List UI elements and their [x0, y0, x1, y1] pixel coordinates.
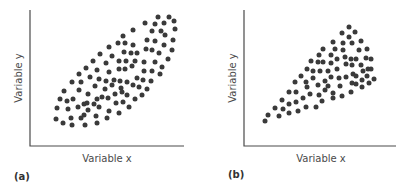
data-point: [117, 59, 122, 64]
panel-a: Variable x Variable y (a): [13, 10, 184, 182]
data-point: [335, 57, 340, 62]
data-point: [153, 60, 158, 65]
data-point: [150, 69, 155, 74]
data-point: [55, 106, 60, 111]
data-point: [137, 85, 142, 90]
data-point: [124, 59, 129, 64]
data-point: [112, 78, 117, 83]
data-point: [329, 75, 334, 80]
data-point: [133, 97, 138, 102]
data-point: [104, 61, 109, 66]
data-point: [83, 123, 88, 128]
data-point: [367, 81, 372, 86]
data-point: [311, 76, 316, 81]
panel-a-ylabel: Variable y: [13, 53, 24, 103]
data-point: [113, 92, 118, 97]
data-point: [93, 84, 98, 89]
data-point: [273, 106, 278, 111]
data-point: [117, 67, 122, 72]
data-point: [340, 94, 345, 99]
data-point: [335, 67, 340, 72]
data-point: [304, 80, 309, 85]
data-point: [320, 99, 325, 104]
data-point: [287, 90, 292, 95]
data-point: [125, 93, 130, 98]
data-point: [131, 83, 136, 88]
data-point: [344, 75, 349, 80]
data-point: [173, 27, 178, 32]
data-point: [91, 59, 96, 64]
data-point: [369, 67, 374, 72]
data-point: [266, 113, 271, 118]
data-point: [369, 57, 374, 62]
panel-b-xlabel: Variable x: [296, 153, 346, 164]
data-point: [156, 15, 161, 20]
panel-a-xlabel: Variable x: [82, 153, 132, 164]
data-point: [365, 74, 370, 79]
data-point: [70, 80, 75, 85]
data-point: [357, 48, 362, 53]
data-point: [149, 79, 154, 84]
scatter-figure: Variable x Variable y (a) Variable x Var…: [0, 0, 401, 187]
panel-b: Variable x Variable y (b): [227, 10, 396, 180]
data-point: [314, 105, 319, 110]
data-point: [365, 47, 370, 52]
data-point: [317, 53, 322, 58]
data-point: [118, 79, 123, 84]
data-point: [114, 101, 119, 106]
data-point: [305, 85, 310, 90]
data-point: [350, 63, 355, 68]
data-point: [326, 69, 331, 74]
data-point: [65, 99, 70, 104]
data-point: [122, 50, 127, 55]
data-point: [129, 51, 134, 56]
data-point: [304, 105, 309, 110]
panel-a-label: (a): [14, 171, 30, 182]
data-point: [121, 100, 126, 105]
data-point: [354, 74, 359, 79]
data-point: [135, 76, 140, 81]
data-point: [97, 77, 102, 82]
data-point: [343, 55, 348, 60]
data-point: [153, 39, 158, 44]
data-point: [341, 41, 346, 46]
data-point: [309, 59, 314, 64]
data-point: [127, 105, 132, 110]
data-point: [170, 48, 175, 53]
data-point: [144, 47, 149, 52]
data-point: [323, 79, 328, 84]
data-point: [361, 69, 366, 74]
data-point: [305, 67, 310, 72]
data-point: [153, 22, 158, 27]
panel-b-points: [263, 25, 377, 124]
data-point: [123, 67, 128, 72]
data-point: [107, 109, 112, 114]
data-point: [95, 97, 100, 102]
data-point: [70, 123, 75, 128]
data-point: [350, 41, 355, 46]
data-point: [77, 88, 82, 93]
data-point: [76, 105, 81, 110]
data-point: [359, 63, 364, 68]
data-point: [347, 25, 352, 30]
data-point: [341, 48, 346, 53]
data-point: [160, 65, 165, 70]
data-point: [349, 57, 354, 62]
data-point: [347, 35, 352, 40]
data-point: [95, 121, 100, 126]
panel-b-label: (b): [228, 169, 244, 180]
data-point: [329, 53, 334, 58]
data-point: [331, 96, 336, 101]
data-point: [333, 47, 338, 52]
data-point: [66, 107, 71, 112]
data-point: [130, 64, 135, 69]
data-point: [331, 91, 336, 96]
data-point: [79, 80, 84, 85]
data-point: [142, 60, 147, 65]
data-point: [106, 96, 111, 101]
data-point: [116, 41, 121, 46]
data-point: [77, 72, 82, 77]
panel-a-points: [54, 15, 178, 128]
data-point: [145, 38, 150, 43]
data-point: [92, 102, 97, 107]
